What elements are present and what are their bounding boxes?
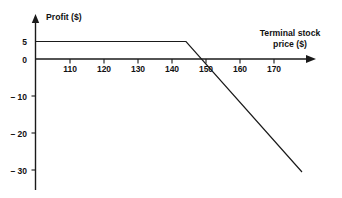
- x-tick-label-160: 160: [233, 64, 247, 74]
- y-tick-label-minus-30: – 30: [10, 166, 27, 176]
- y-tick-label-5: 5: [22, 37, 27, 47]
- y-tick-label-minus-20: – 20: [10, 129, 27, 139]
- x-axis-title-line1: Terminal stock: [260, 28, 321, 38]
- y-tick-label-0: 0: [22, 55, 27, 65]
- y-axis: [32, 14, 39, 190]
- x-tick-label-110: 110: [63, 64, 77, 74]
- x-tick-label-150: 150: [199, 64, 213, 74]
- x-tick-label-120: 120: [97, 64, 111, 74]
- y-axis-title: Profit ($): [46, 12, 82, 22]
- payoff-chart: 5 0 – 10 – 20 – 30 110 120 130 140 150 1…: [0, 0, 342, 198]
- x-tick-label-170: 170: [267, 64, 281, 74]
- payoff-line: [36, 42, 302, 173]
- x-axis-title-line2: price ($): [273, 39, 307, 49]
- x-tick-label-140: 140: [165, 64, 179, 74]
- x-tick-label-130: 130: [131, 64, 145, 74]
- y-tick-label-minus-10: – 10: [10, 92, 27, 102]
